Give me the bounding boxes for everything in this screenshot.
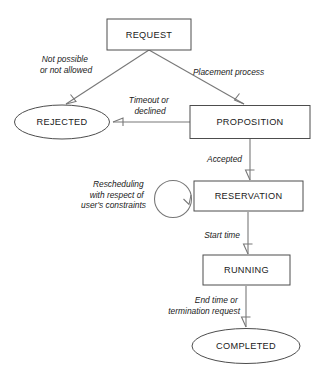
edge-label-line: Timeout or [129,95,170,105]
state-node-reservation[interactable]: RESERVATION [194,181,303,211]
edge-label-line: Placement process [193,67,265,77]
state-node-running[interactable]: RUNNING [203,255,290,285]
state-label-request: REQUEST [126,30,173,40]
edge-reservation-self-loop [155,181,192,218]
state-node-rejected[interactable]: REJECTED [15,105,110,139]
edge-label-line: Start time [204,230,240,240]
edge-proposition-to-reservation [246,139,255,180]
edge-label-line: End time or [195,295,239,305]
state-label-completed: COMPLETED [216,341,276,351]
edge-label-line: Accepted [206,154,242,164]
edge-label-line: with respect of [90,190,146,200]
state-label-proposition: PROPOSITION [216,117,283,127]
state-node-proposition[interactable]: PROPOSITION [190,106,310,139]
edge-label-proposition-to-rejected: Timeout or declined [129,95,171,116]
edge-label-line: termination request [168,306,240,316]
edge-reservation-to-running [244,212,253,254]
edge-label-proposition-to-reservation: Accepted [206,154,242,164]
state-diagram-canvas: REQUEST REJECTED PROPOSITION RESERVATION… [0,0,321,376]
state-diagram: REQUEST REJECTED PROPOSITION RESERVATION… [0,0,321,376]
edge-label-line: Rescheduling [93,179,144,189]
edge-label-request-to-proposition: Placement process [193,67,265,77]
edge-label-reservation-to-running: Start time [204,230,240,240]
state-node-request[interactable]: REQUEST [107,19,191,50]
edge-label-running-to-completed: End time or termination request [168,295,240,316]
edge-label-line: declined [134,106,166,116]
state-label-running: RUNNING [224,265,269,275]
edge-label-line: user's constraints [81,200,147,210]
edge-label-line: or not allowed [40,65,92,75]
state-label-reservation: RESERVATION [215,191,283,201]
edge-label-request-to-rejected: Not possible or not allowed [40,54,92,75]
state-node-completed[interactable]: COMPLETED [192,329,300,364]
edge-running-to-completed [242,286,251,327]
edge-proposition-to-rejected [113,118,190,126]
state-label-rejected: REJECTED [37,117,88,127]
edge-label-reservation-self-loop: Rescheduling with respect of user's cons… [81,179,147,210]
edge-label-line: Not possible [42,54,88,64]
